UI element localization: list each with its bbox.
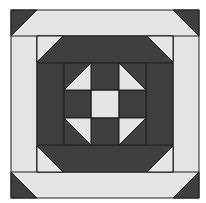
center-square <box>91 90 119 118</box>
quilt-block-diagram <box>0 0 206 203</box>
quilt-block-svg <box>0 0 206 203</box>
